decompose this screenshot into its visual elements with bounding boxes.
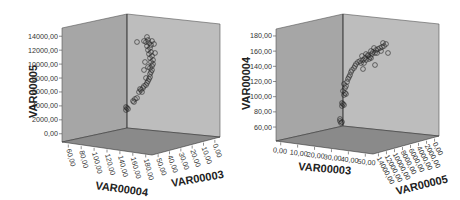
- tick-label: 120,00: [250, 77, 272, 86]
- tick-label: 0,00: [272, 145, 287, 155]
- tick-label: 100,00: [250, 92, 272, 101]
- chart-right-svg: 60,0080,00100,00120,00140,00160,00180,00…: [0, 0, 460, 200]
- tick-label: 20,00: [306, 150, 325, 161]
- tick-label: 50,00: [357, 157, 376, 168]
- vertical-axis-ticks: 60,0080,00100,00120,00140,00160,00180,00: [250, 31, 276, 131]
- tick-label: 30,00: [323, 152, 342, 163]
- tick-label: 160,00: [250, 47, 272, 56]
- back-left-wall: [276, 14, 343, 141]
- tick-label: 140,00: [250, 62, 272, 71]
- vertical-axis-title: VAR00004: [240, 56, 252, 110]
- tick-label: 180,00: [250, 31, 272, 40]
- tick-label: 10,00: [289, 148, 308, 159]
- chart-right: 60,0080,00100,00120,00140,00160,00180,00…: [0, 0, 230, 200]
- tick-label: 80,00: [254, 107, 272, 116]
- back-right-wall: [343, 14, 439, 136]
- tick-label: 60,00: [254, 123, 272, 132]
